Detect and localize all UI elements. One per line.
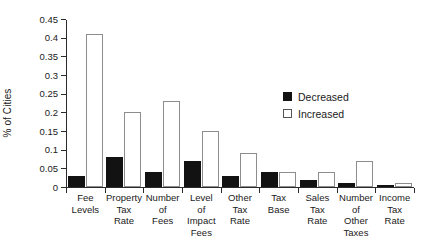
bar-decreased xyxy=(106,157,123,187)
x-axis-label: Fee Levels xyxy=(66,192,105,215)
x-axis-label: Number of Other Taxes xyxy=(337,192,376,238)
y-tick-label: 0.35 xyxy=(40,51,59,62)
bar-increased xyxy=(279,172,296,187)
bar-increased xyxy=(395,183,412,187)
bar-decreased xyxy=(184,161,201,187)
x-axis-label: Number of Fees xyxy=(143,192,182,227)
y-tick-label: 0.25 xyxy=(40,88,59,99)
bar-group xyxy=(66,19,105,187)
bar-group xyxy=(375,19,414,187)
bar-group xyxy=(221,19,260,187)
x-axis-label: Sales Tax Rate xyxy=(298,192,337,227)
x-axis-label: Tax Base xyxy=(259,192,298,215)
bar-increased xyxy=(356,161,373,187)
y-tick-label: 0.3 xyxy=(45,70,58,81)
bar-increased xyxy=(240,153,257,187)
bar-increased xyxy=(86,34,103,187)
x-axis-label: Income Tax Rate xyxy=(375,192,414,227)
y-tick-label: 0 xyxy=(53,182,58,193)
y-tick-label: 0.2 xyxy=(45,107,58,118)
outlined-square-icon xyxy=(283,109,292,118)
bar-group xyxy=(182,19,221,187)
x-axis-label: Level of Impact Fees xyxy=(182,192,221,238)
bar-increased xyxy=(124,112,141,187)
x-tick xyxy=(414,188,415,193)
y-axis-title: % of Cities xyxy=(2,63,16,163)
bar-decreased xyxy=(68,176,85,187)
bar-decreased xyxy=(338,183,355,187)
y-tick-label: 0.15 xyxy=(40,126,59,137)
x-axis-label: Other Tax Rate xyxy=(221,192,260,227)
bar-increased xyxy=(202,131,219,187)
chart-legend: DecreasedIncreased xyxy=(283,88,349,122)
bar-increased xyxy=(318,172,335,187)
bar-decreased xyxy=(145,172,162,187)
y-tick-label: 0.4 xyxy=(45,32,58,43)
y-tick-label: 0.45 xyxy=(40,14,59,25)
filled-square-icon xyxy=(283,92,292,101)
bar-increased xyxy=(163,101,180,187)
bar-chart: % of Cities 00.050.10.150.20.250.30.350.… xyxy=(0,0,423,252)
x-axis-line xyxy=(66,187,414,188)
bar-group xyxy=(105,19,144,187)
legend-item: Decreased xyxy=(283,88,349,105)
y-tick-label: 0.1 xyxy=(45,144,58,155)
x-axis-label: Property Tax Rate xyxy=(105,192,144,227)
legend-item: Increased xyxy=(283,105,349,122)
bar-group xyxy=(143,19,182,187)
plot-area: 00.050.10.150.20.250.30.350.40.45 xyxy=(66,20,414,188)
legend-label: Increased xyxy=(298,108,344,120)
bar-decreased xyxy=(222,176,239,187)
bar-decreased xyxy=(377,185,394,187)
bar-decreased xyxy=(261,172,278,187)
y-tick-label: 0.05 xyxy=(40,163,59,174)
legend-label: Decreased xyxy=(298,91,349,103)
bar-decreased xyxy=(300,180,317,187)
